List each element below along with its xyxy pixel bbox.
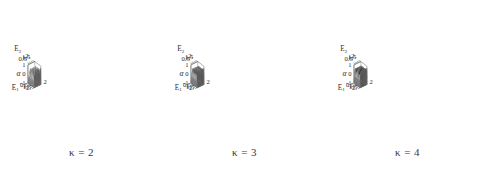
ztick-label: -1: [20, 79, 26, 86]
xtick-label: 2.: [26, 84, 31, 91]
three-panel-surface-figure: 0.51.1.52.0.51.1.52.10-1E2E1α2 κ = 2 0.5…: [0, 0, 489, 174]
panel-caption-3: κ = 4: [326, 146, 489, 158]
ztick-label: -1: [346, 79, 352, 86]
surface-plot-svg: 0.51.1.52.0.51.1.52.10-1E2E1α2: [0, 0, 163, 148]
x-axis-title: E1: [175, 84, 182, 93]
ztick-label: 0: [22, 70, 26, 77]
y-axis-title: E2: [340, 45, 347, 54]
surface-plot-svg: 0.51.1.52.0.51.1.52.10-1E2E1α2: [326, 0, 489, 148]
ytick-label: 2.: [188, 52, 193, 59]
surface-panel-kappa-3: 0.51.1.52.0.51.1.52.10-1E2E1α2 κ = 3: [163, 0, 326, 174]
ytick-label: 2.: [351, 52, 356, 59]
plot-area-2: 0.51.1.52.0.51.1.52.10-1E2E1α2: [163, 0, 326, 148]
x-axis-title: E1: [338, 84, 345, 93]
ztick-label: -1: [183, 79, 189, 86]
plot-area-1: 0.51.1.52.0.51.1.52.10-1E2E1α2: [0, 0, 163, 148]
surface-panel-kappa-2: 0.51.1.52.0.51.1.52.10-1E2E1α2 κ = 2: [0, 0, 163, 174]
z-axis-title: α: [180, 69, 185, 78]
xtick-label: 2.: [189, 84, 194, 91]
corner-tick-label: 2: [369, 78, 372, 85]
ztick-label: 1: [348, 61, 351, 68]
xtick-label: 2.: [352, 84, 357, 91]
z-axis-title: α: [343, 69, 348, 78]
panel-caption-2: κ = 3: [163, 146, 326, 158]
x-axis-title: E1: [12, 84, 19, 93]
ztick-label: 0: [348, 70, 352, 77]
corner-tick-label: 2: [206, 78, 209, 85]
ytick-label: 2.: [25, 52, 30, 59]
surface-panel-kappa-4: 0.51.1.52.0.51.1.52.10-1E2E1α2 κ = 4: [326, 0, 489, 174]
panel-caption-1: κ = 2: [0, 146, 163, 158]
ztick-label: 1: [22, 61, 25, 68]
z-axis-title: α: [17, 69, 22, 78]
surface-plot-svg: 0.51.1.52.0.51.1.52.10-1E2E1α2: [163, 0, 326, 148]
ztick-label: 0: [185, 70, 189, 77]
plot-area-3: 0.51.1.52.0.51.1.52.10-1E2E1α2: [326, 0, 489, 148]
y-axis-title: E2: [177, 45, 184, 54]
corner-tick-label: 2: [43, 78, 46, 85]
y-axis-title: E2: [14, 45, 21, 54]
ztick-label: 1: [185, 61, 188, 68]
